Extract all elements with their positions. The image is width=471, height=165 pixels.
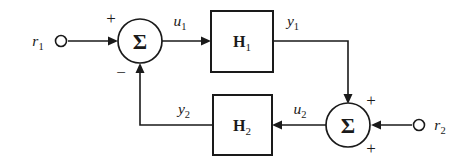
arrowhead-into-h1 <box>201 37 211 46</box>
block-h1-subscript: 1 <box>245 41 251 53</box>
arrowhead-into-sum-left-bottom <box>136 63 145 73</box>
block-h2-symbol: H <box>233 117 246 134</box>
block-diagram-figure: Σ Σ + − + + H1 H2 r1 r2 u1 y1 <box>0 0 471 165</box>
sigma-glyph-left: Σ <box>133 29 147 54</box>
input-node-r2[interactable] <box>414 120 425 131</box>
arrowhead-into-sum-right-side <box>371 121 381 130</box>
arrowhead-into-h2 <box>272 121 282 130</box>
input-r2-label: r2 <box>434 116 445 136</box>
sign-plus-sum-right-side: + <box>366 139 376 158</box>
signal-y2-symbol: y <box>176 100 185 117</box>
diagram-canvas: Σ Σ + − + + H1 H2 r1 r2 u1 y1 <box>0 0 471 165</box>
signal-y2-subscript: 2 <box>185 109 190 120</box>
signal-y2-label: y2 <box>176 100 190 120</box>
block-h1-symbol: H <box>233 33 246 50</box>
signal-u1-subscript: 1 <box>181 21 186 32</box>
sigma-glyph-right: Σ <box>341 113 355 138</box>
sign-plus-sum-right-top: + <box>366 91 376 110</box>
block-h2-subscript: 2 <box>245 125 251 137</box>
input-node-r1[interactable] <box>56 36 67 47</box>
signal-y1-subscript: 1 <box>294 21 299 32</box>
sign-plus-sum-left-input: + <box>106 9 116 28</box>
signal-y1-symbol: y <box>285 12 294 29</box>
input-r1-label: r1 <box>32 32 43 52</box>
input-r1-subscript: 1 <box>38 41 43 52</box>
wire-y2-feedback <box>140 69 213 125</box>
signal-y1-label: y1 <box>285 12 299 32</box>
signal-u2-label: u2 <box>294 100 307 120</box>
signal-u2-subscript: 2 <box>301 109 306 120</box>
input-r2-subscript: 2 <box>440 125 445 136</box>
wire-y1-to-sum-right <box>273 41 348 98</box>
signal-u1-label: u1 <box>174 12 187 32</box>
arrowhead-into-sum-left <box>108 37 118 46</box>
sign-minus-sum-left-feedback: − <box>116 63 126 82</box>
